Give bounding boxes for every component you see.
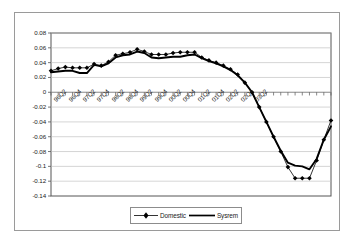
y-axis-tick-label: -0.02 xyxy=(15,103,46,110)
legend-marker-system-icon xyxy=(189,211,215,220)
y-axis-tick-label: 0.02 xyxy=(15,73,46,80)
y-axis-tick-label: 0.08 xyxy=(15,29,46,36)
legend-label-system: Sysrem xyxy=(217,212,238,219)
legend-label-domestic: Domestic xyxy=(160,212,186,219)
chart-figure: 0.080.060.040.020-0.02-0.04-0.06-0.08-0.… xyxy=(0,0,359,244)
y-axis-tick-label: -0.1 xyxy=(15,162,46,169)
y-axis-tick-label: 0 xyxy=(15,88,46,95)
legend-marker-domestic-icon xyxy=(134,211,158,220)
y-axis-tick-label: -0.08 xyxy=(15,148,46,155)
line-chart-canvas xyxy=(15,13,339,230)
y-axis-tick-label: -0.04 xyxy=(15,118,46,125)
chart-plot-frame: 0.080.060.040.020-0.02-0.04-0.06-0.08-0.… xyxy=(14,12,340,231)
chart-legend: Domestic Sysrem xyxy=(130,207,242,224)
y-axis-tick-label: -0.12 xyxy=(15,177,46,184)
y-axis-tick-label: 0.06 xyxy=(15,44,46,51)
y-axis-tick-label: 0.04 xyxy=(15,59,46,66)
legend-entry-system: Sysrem xyxy=(189,211,238,220)
y-axis-tick-label: -0.06 xyxy=(15,133,46,140)
y-axis-tick-label: -0.14 xyxy=(15,192,46,199)
legend-entry-domestic: Domestic xyxy=(134,211,186,220)
